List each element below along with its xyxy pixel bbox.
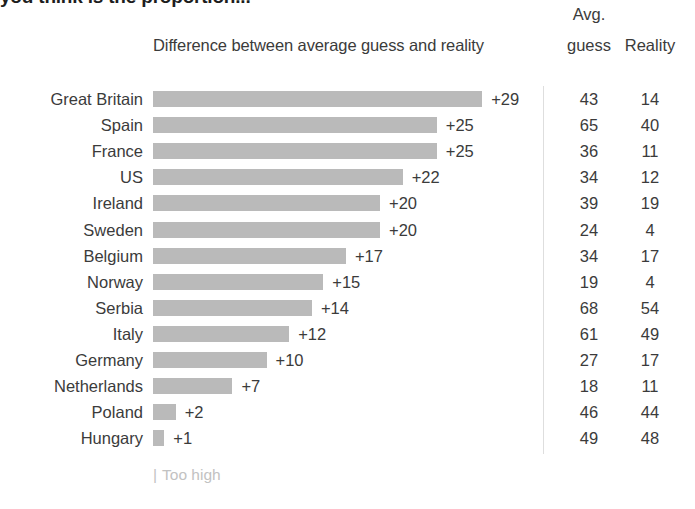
reality-value: 11 bbox=[614, 141, 686, 161]
bar bbox=[153, 404, 176, 420]
avg-guess-value: 61 bbox=[556, 324, 622, 344]
reality-value: 54 bbox=[614, 298, 686, 318]
bar-value-label: +1 bbox=[173, 428, 192, 448]
reality-value: 49 bbox=[614, 324, 686, 344]
row-label-serbia: Serbia bbox=[0, 298, 143, 318]
row-label-great-britain: Great Britain bbox=[0, 89, 143, 109]
legend-too-high: |Too high bbox=[153, 466, 221, 484]
bar bbox=[153, 430, 164, 446]
avg-guess-value: 46 bbox=[556, 402, 622, 422]
bar-value-label: +25 bbox=[446, 141, 474, 161]
chart-row: Norway+15194 bbox=[0, 272, 695, 298]
bar-value-label: +2 bbox=[185, 402, 204, 422]
row-label-hungary: Hungary bbox=[0, 428, 143, 448]
reality-value: 48 bbox=[614, 428, 686, 448]
bar-value-label: +25 bbox=[446, 115, 474, 135]
reality-value: 17 bbox=[614, 246, 686, 266]
reality-value: 4 bbox=[614, 272, 686, 292]
bar-value-label: +20 bbox=[389, 220, 417, 240]
chart-row: Serbia+146854 bbox=[0, 298, 695, 324]
bar-value-label: +29 bbox=[491, 89, 519, 109]
row-label-netherlands: Netherlands bbox=[0, 376, 143, 396]
avg-guess-value: 65 bbox=[556, 115, 622, 135]
bar bbox=[153, 300, 312, 316]
bar-value-label: +20 bbox=[389, 193, 417, 213]
row-label-ireland: Ireland bbox=[0, 193, 143, 213]
bar bbox=[153, 326, 289, 342]
legend-tick-icon: | bbox=[153, 466, 157, 484]
bar bbox=[153, 222, 380, 238]
row-label-belgium: Belgium bbox=[0, 246, 143, 266]
avg-guess-value: 24 bbox=[556, 220, 622, 240]
bar-value-label: +10 bbox=[276, 350, 304, 370]
avg-guess-value: 68 bbox=[556, 298, 622, 318]
bar-value-label: +7 bbox=[241, 376, 260, 396]
bar-value-label: +15 bbox=[332, 272, 360, 292]
bar-value-label: +22 bbox=[412, 167, 440, 187]
reality-value: 14 bbox=[614, 89, 686, 109]
row-label-france: France bbox=[0, 141, 143, 161]
bar bbox=[153, 195, 380, 211]
reality-value: 11 bbox=[614, 376, 686, 396]
chart-rows: Great Britain+294314Spain+256540France+2… bbox=[0, 0, 695, 509]
bar bbox=[153, 274, 323, 290]
avg-guess-value: 34 bbox=[556, 167, 622, 187]
chart-row: Spain+256540 bbox=[0, 115, 695, 141]
avg-guess-value: 18 bbox=[556, 376, 622, 396]
avg-guess-value: 43 bbox=[556, 89, 622, 109]
row-label-italy: Italy bbox=[0, 324, 143, 344]
bar bbox=[153, 169, 403, 185]
avg-guess-value: 36 bbox=[556, 141, 622, 161]
chart-row: Ireland+203919 bbox=[0, 193, 695, 219]
chart-row: Poland+24644 bbox=[0, 402, 695, 428]
chart-row: Belgium+173417 bbox=[0, 246, 695, 272]
row-label-us: US bbox=[0, 167, 143, 187]
avg-guess-value: 27 bbox=[556, 350, 622, 370]
row-label-germany: Germany bbox=[0, 350, 143, 370]
legend-label: Too high bbox=[162, 466, 221, 483]
bar bbox=[153, 143, 437, 159]
avg-guess-value: 39 bbox=[556, 193, 622, 213]
row-label-spain: Spain bbox=[0, 115, 143, 135]
chart-row: Italy+126149 bbox=[0, 324, 695, 350]
bar bbox=[153, 117, 437, 133]
reality-value: 17 bbox=[614, 350, 686, 370]
bar bbox=[153, 378, 232, 394]
row-label-sweden: Sweden bbox=[0, 220, 143, 240]
avg-guess-value: 34 bbox=[556, 246, 622, 266]
bar-value-label: +17 bbox=[355, 246, 383, 266]
chart-row: Netherlands+71811 bbox=[0, 376, 695, 402]
row-label-norway: Norway bbox=[0, 272, 143, 292]
reality-value: 40 bbox=[614, 115, 686, 135]
chart-row: France+253611 bbox=[0, 141, 695, 167]
bar-value-label: +14 bbox=[321, 298, 349, 318]
reality-value: 12 bbox=[614, 167, 686, 187]
chart-row: US+223412 bbox=[0, 167, 695, 193]
reality-value: 4 bbox=[614, 220, 686, 240]
reality-value: 44 bbox=[614, 402, 686, 422]
reality-value: 19 bbox=[614, 193, 686, 213]
chart-row: Hungary+14948 bbox=[0, 428, 695, 454]
chart-row: Sweden+20244 bbox=[0, 220, 695, 246]
bar bbox=[153, 91, 482, 107]
bar bbox=[153, 352, 267, 368]
chart-row: Great Britain+294314 bbox=[0, 89, 695, 115]
avg-guess-value: 19 bbox=[556, 272, 622, 292]
avg-guess-value: 49 bbox=[556, 428, 622, 448]
bar bbox=[153, 248, 346, 264]
chart-row: Germany+102717 bbox=[0, 350, 695, 376]
row-label-poland: Poland bbox=[0, 402, 143, 422]
bar-value-label: +12 bbox=[298, 324, 326, 344]
